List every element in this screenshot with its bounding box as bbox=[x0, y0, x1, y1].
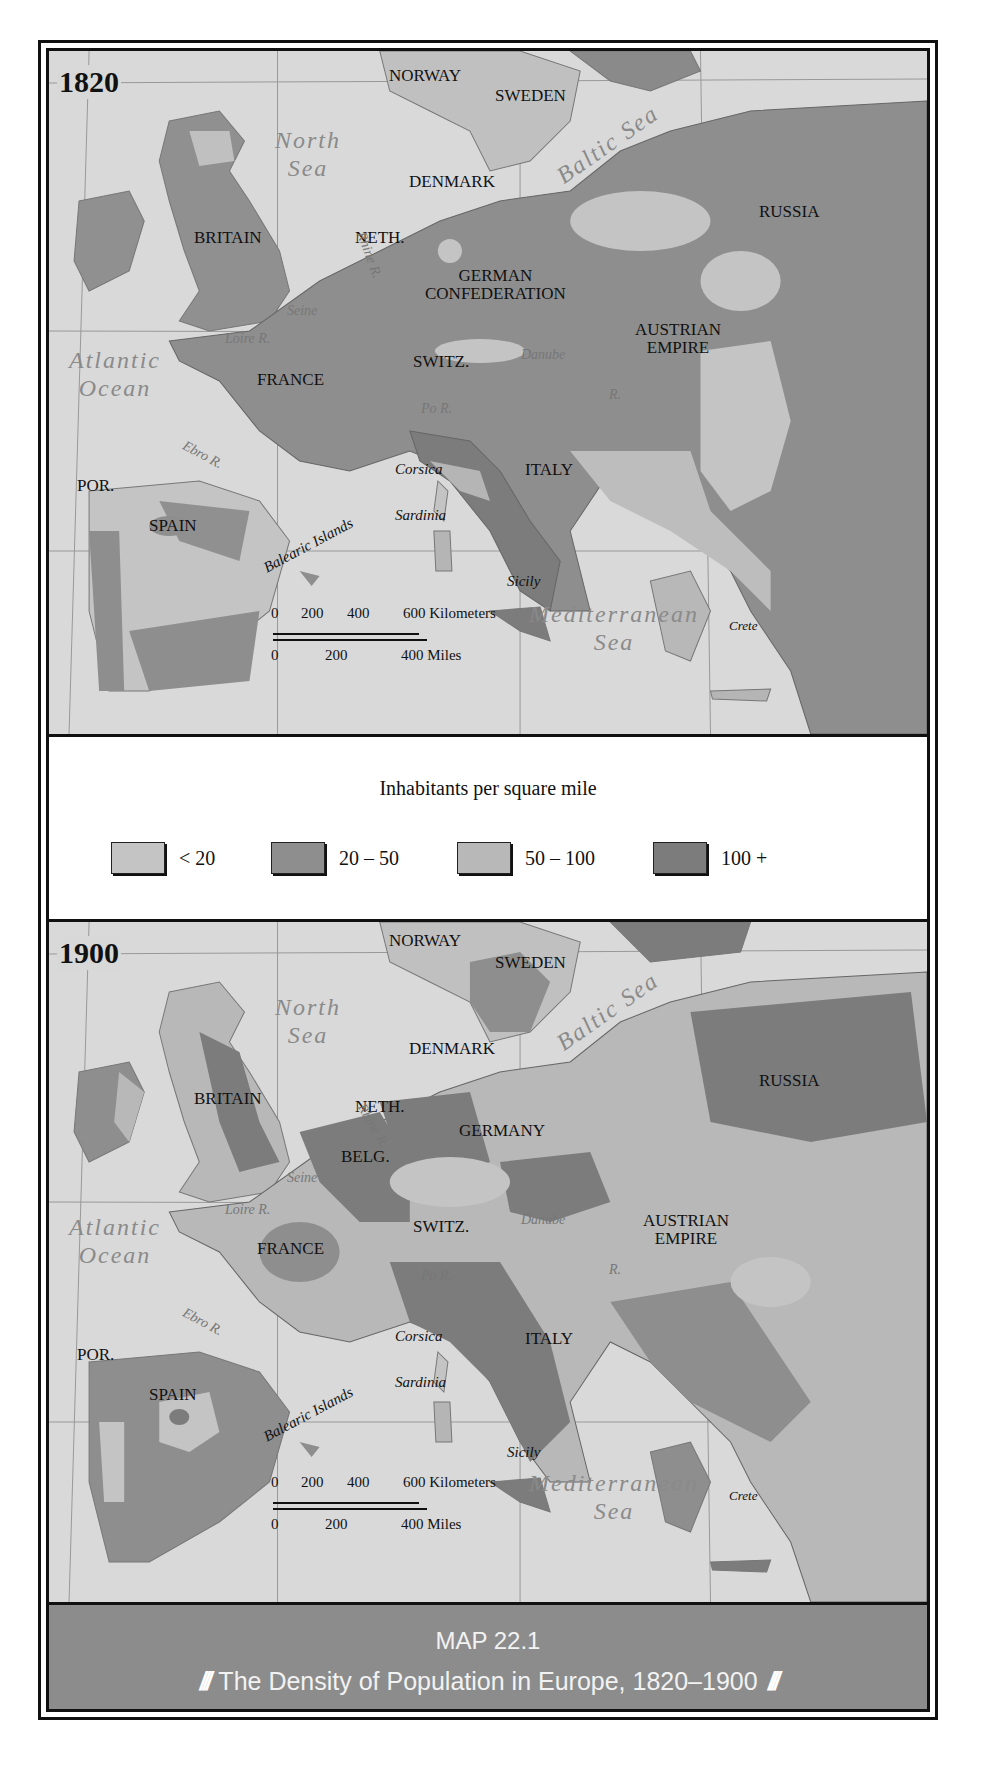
legend-swatch bbox=[111, 842, 165, 874]
label-line-2: EMPIRE bbox=[635, 339, 721, 357]
country-label-italy: ITALY bbox=[525, 461, 573, 479]
river-label-r: R. bbox=[609, 1262, 621, 1278]
map-1900: 1900 NORWAY SWEDEN DENMARK RUSSIA BRITAI… bbox=[49, 922, 927, 1605]
country-label-german-confederation: GERMAN CONFEDERATION bbox=[425, 267, 566, 303]
label-line-2: CONFEDERATION bbox=[425, 285, 566, 303]
legend-label: < 20 bbox=[179, 847, 215, 870]
country-label-norway: NORWAY bbox=[389, 932, 461, 950]
legend: Inhabitants per square mile < 20 20 – 50… bbox=[49, 737, 927, 922]
river-label-po: Po R. bbox=[421, 401, 452, 417]
map-number: MAP 22.1 bbox=[49, 1627, 927, 1655]
country-label-russia: RUSSIA bbox=[759, 203, 819, 221]
map-title-text: The Density of Population in Europe, 182… bbox=[218, 1667, 757, 1695]
label-line-1: Mediterranean bbox=[529, 601, 699, 629]
label-line-2: Sea bbox=[529, 629, 699, 657]
scale-tick-label: 200 bbox=[301, 1474, 324, 1491]
island-label-crete: Crete bbox=[729, 1488, 757, 1504]
island-label-corsica: Corsica bbox=[395, 461, 443, 478]
scale-tick-label: 400 bbox=[347, 1474, 370, 1491]
label-line-2: Ocean bbox=[69, 1242, 161, 1270]
label-line-1: GERMAN bbox=[425, 267, 566, 285]
river-label-danube: Danube bbox=[521, 347, 565, 363]
map-1820-shapes bbox=[49, 51, 927, 734]
country-label-denmark: DENMARK bbox=[409, 1040, 495, 1058]
scale-km-bar bbox=[273, 1502, 419, 1504]
island-label-sicily: Sicily bbox=[507, 573, 540, 590]
sea-label-atlantic: Atlantic Ocean bbox=[69, 347, 161, 402]
country-label-france: FRANCE bbox=[257, 371, 324, 389]
country-label-norway: NORWAY bbox=[389, 67, 461, 85]
island-label-sardinia: Sardinia bbox=[395, 507, 446, 524]
country-label-france: FRANCE bbox=[257, 1240, 324, 1258]
scale-mi-bar bbox=[273, 639, 427, 641]
scale-tick-label: 200 bbox=[301, 605, 324, 622]
river-label-loire: Loire R. bbox=[225, 1202, 270, 1218]
sea-label-north-sea: North Sea bbox=[275, 994, 341, 1049]
map-1820: 1820 NORWAY SWEDEN DENMARK RUSSIA BRITAI… bbox=[49, 51, 927, 737]
label-line-2: Sea bbox=[275, 1022, 341, 1050]
scale-tick-label: 0 bbox=[271, 605, 279, 622]
country-label-sweden: SWEDEN bbox=[495, 954, 566, 972]
year-label: 1820 bbox=[57, 65, 121, 99]
island-label-sicily: Sicily bbox=[507, 1444, 540, 1461]
country-label-austrian-empire: AUSTRIAN EMPIRE bbox=[643, 1212, 729, 1248]
country-label-por: POR. bbox=[77, 477, 114, 495]
country-label-germany: GERMANY bbox=[459, 1122, 545, 1140]
legend-item-20-50: 20 – 50 bbox=[271, 842, 399, 874]
country-label-britain: BRITAIN bbox=[194, 1090, 262, 1108]
caption-band: MAP 22.1 ///The Density of Population in… bbox=[49, 1605, 927, 1709]
year-label: 1900 bbox=[57, 936, 121, 970]
country-label-denmark: DENMARK bbox=[409, 173, 495, 191]
country-label-por: POR. bbox=[77, 1346, 114, 1364]
label-line-1: AUSTRIAN bbox=[635, 321, 721, 339]
legend-swatch bbox=[271, 842, 325, 874]
scale-tick-label: 0 bbox=[271, 647, 279, 664]
river-label-r: R. bbox=[609, 387, 621, 403]
sea-label-mediterranean: Mediterranean Sea bbox=[529, 1470, 699, 1525]
country-label-switz: SWITZ. bbox=[413, 353, 469, 371]
country-label-belg: BELG. bbox=[341, 1148, 390, 1166]
legend-label: 50 – 100 bbox=[525, 847, 595, 870]
legend-label: 20 – 50 bbox=[339, 847, 399, 870]
island-label-sardinia: Sardinia bbox=[395, 1374, 446, 1391]
country-label-britain: BRITAIN bbox=[194, 229, 262, 247]
country-label-sweden: SWEDEN bbox=[495, 87, 566, 105]
scale-tick-label: 0 bbox=[271, 1516, 279, 1533]
country-label-switz: SWITZ. bbox=[413, 1218, 469, 1236]
scale-bar: 0 200 400 600 Kilometers 0 200 400 Miles bbox=[271, 1474, 471, 1544]
river-label-seine: Seine bbox=[287, 303, 317, 319]
legend-item-100-plus: 100 + bbox=[653, 842, 767, 874]
ornament-icon: /// bbox=[768, 1667, 777, 1696]
scale-tick-label: 600 Kilometers bbox=[403, 605, 496, 622]
legend-swatch bbox=[457, 842, 511, 874]
legend-label: 100 + bbox=[721, 847, 767, 870]
country-label-italy: ITALY bbox=[525, 1330, 573, 1348]
scale-tick-label: 600 Kilometers bbox=[403, 1474, 496, 1491]
legend-item-lt20: < 20 bbox=[111, 842, 215, 874]
country-label-russia: RUSSIA bbox=[759, 1072, 819, 1090]
scale-tick-label: 200 bbox=[325, 1516, 348, 1533]
legend-title: Inhabitants per square mile bbox=[49, 777, 927, 800]
river-label-seine: Seine bbox=[287, 1170, 317, 1186]
scale-tick-label: 200 bbox=[325, 647, 348, 664]
scale-bar: 0 200 400 600 Kilometers 0 200 400 Miles bbox=[271, 605, 471, 675]
sea-label-north-sea: North Sea bbox=[275, 127, 341, 182]
river-label-po: Po R. bbox=[421, 1268, 452, 1284]
sea-label-mediterranean: Mediterranean Sea bbox=[529, 601, 699, 656]
country-label-spain: SPAIN bbox=[149, 517, 197, 535]
scale-tick-label: 0 bbox=[271, 1474, 279, 1491]
ornament-icon: /// bbox=[200, 1667, 209, 1696]
country-label-austrian-empire: AUSTRIAN EMPIRE bbox=[635, 321, 721, 357]
scale-tick-label: 400 bbox=[347, 605, 370, 622]
label-line-2: Sea bbox=[275, 155, 341, 183]
label-line-1: Atlantic bbox=[69, 347, 161, 375]
label-line-1: North bbox=[275, 994, 341, 1022]
island-label-crete: Crete bbox=[729, 618, 757, 634]
island-label-corsica: Corsica bbox=[395, 1328, 443, 1345]
label-line-2: EMPIRE bbox=[643, 1230, 729, 1248]
legend-item-50-100: 50 – 100 bbox=[457, 842, 595, 874]
sea-label-atlantic: Atlantic Ocean bbox=[69, 1214, 161, 1269]
scale-tick-label: 400 Miles bbox=[401, 1516, 461, 1533]
river-label-danube: Danube bbox=[521, 1212, 565, 1228]
label-line-1: AUSTRIAN bbox=[643, 1212, 729, 1230]
